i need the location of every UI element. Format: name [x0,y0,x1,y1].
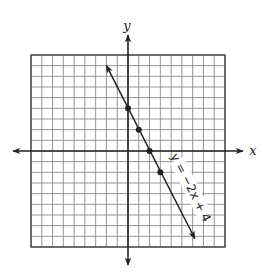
plotted-point [125,105,131,111]
coordinate-plane: x y y = −2x + 4 [0,0,268,275]
plotted-point [147,148,153,154]
x-axis-label: x [249,143,257,158]
plotted-point [157,169,163,175]
plotted-point [136,127,142,133]
y-axis-label: y [122,18,131,33]
